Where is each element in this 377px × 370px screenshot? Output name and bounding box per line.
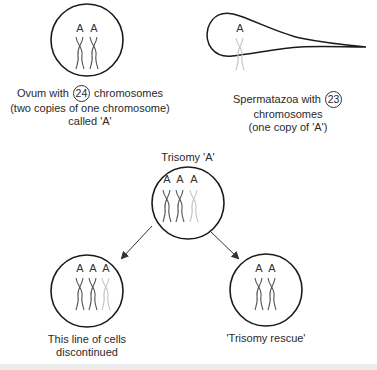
trisomy-chromosome-2 xyxy=(176,190,184,222)
ovum-caption-line2: (two copies of one chromosome) xyxy=(10,102,170,115)
trisomy-chromosome-label-3: A xyxy=(190,173,198,185)
sperm-caption-pre: Spermatazoa with xyxy=(233,93,321,105)
discontinued-cell: A A A xyxy=(51,255,123,327)
ovum-chromosome-2 xyxy=(90,37,98,69)
ovum-chromosome-count: 24 xyxy=(73,85,90,102)
sperm-caption: Spermatazoa with 23 chromosomes (one cop… xyxy=(218,91,358,134)
trisomy-cell: A A A xyxy=(152,167,224,239)
discontinued-caption: This line of cells discontinued xyxy=(27,333,147,359)
arrow-to-discontinued xyxy=(122,226,152,258)
bottom-strip xyxy=(0,364,377,370)
ovum-caption-post: chromosomes xyxy=(94,87,163,99)
discontinued-chromosome-label-2: A xyxy=(89,262,97,274)
ovum-caption-line3: called 'A' xyxy=(10,115,170,128)
sperm-cell: A xyxy=(207,13,366,70)
rescue-chromosome-1 xyxy=(255,278,263,310)
diagram-canvas: A A A A A A A A A A A xyxy=(0,0,377,370)
rescue-chromosome-label-1: A xyxy=(255,262,263,274)
discontinued-caption-line2: discontinued xyxy=(27,346,147,359)
sperm-chromosome-label: A xyxy=(236,22,244,34)
sperm-chromosome-count: 23 xyxy=(325,91,342,108)
discontinued-chromosome-3 xyxy=(102,278,110,310)
discontinued-chromosome-label-1: A xyxy=(76,262,84,274)
arrow-to-rescue xyxy=(210,231,238,258)
discontinued-caption-line1: This line of cells xyxy=(27,333,147,346)
rescue-chromosome-label-2: A xyxy=(268,262,276,274)
rescue-chromosome-2 xyxy=(268,278,276,310)
trisomy-title: Trisomy 'A' xyxy=(138,151,238,164)
discontinued-chromosome-1 xyxy=(76,278,84,310)
sperm-caption-line2: chromosomes xyxy=(218,108,358,121)
discontinued-chromosome-label-3: A xyxy=(102,262,110,274)
trisomy-chromosome-label-1: A xyxy=(163,173,171,185)
rescue-cell: A A xyxy=(230,254,302,326)
ovum-chromosome-1 xyxy=(76,37,84,69)
sperm-caption-line3: (one copy of 'A') xyxy=(218,121,358,134)
trisomy-chromosome-1 xyxy=(163,190,171,222)
ovum-cell: A A xyxy=(51,4,123,76)
ovum-chromosome-label-1: A xyxy=(76,22,84,34)
discontinued-chromosome-2 xyxy=(89,278,97,310)
rescue-caption: 'Trisomy rescue' xyxy=(216,332,316,345)
ovum-chromosome-label-2: A xyxy=(90,22,98,34)
trisomy-chromosome-label-2: A xyxy=(176,173,184,185)
ovum-caption-pre: Ovum with xyxy=(17,87,69,99)
ovum-caption: Ovum with 24 chromosomes (two copies of … xyxy=(10,85,170,128)
trisomy-chromosome-3 xyxy=(190,190,198,222)
